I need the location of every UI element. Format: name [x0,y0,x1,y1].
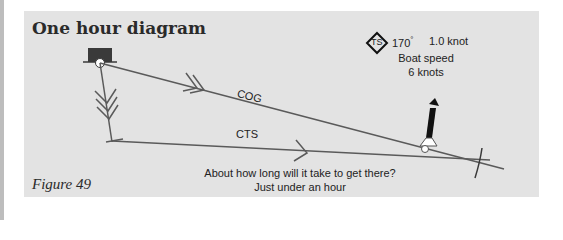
tide-rate: 1.0 knot [429,35,468,47]
answer-text: Just under an hour [180,181,420,193]
cog-line [100,63,504,169]
boat-speed-label: Boat speed [386,52,466,64]
figure-caption: Figure 49 [32,176,91,193]
degree-symbol: ° [410,35,413,44]
tide-direction-value: 170 [392,37,410,49]
tidal-stream-label: TS [371,37,383,47]
boat-speed-value: 6 knots [386,66,466,78]
question-text: About how long will it take to get there… [180,167,420,179]
tide-direction: 170° [392,35,414,49]
boat-heading-icon [420,98,439,153]
cog-double-arrow-icon [183,73,204,93]
cts-label: CTS [236,128,258,140]
